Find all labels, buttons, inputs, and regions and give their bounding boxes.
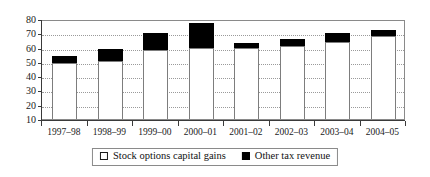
x-axis-tick-label: 1997–98 — [47, 128, 80, 138]
bar-group — [280, 19, 305, 119]
legend-item-stock-options: Stock options capital gains — [100, 151, 226, 162]
y-axis-tick-label: 20 — [26, 101, 36, 111]
bar-segment-stock-options-capital-gains — [371, 36, 396, 119]
y-axis-tick — [38, 63, 42, 64]
bar-segment-other-tax-revenue — [189, 23, 214, 47]
y-axis-tick — [38, 77, 42, 78]
x-axis-tick-label: 2001–02 — [229, 128, 262, 138]
bar-group — [325, 19, 350, 119]
y-axis-tick — [38, 91, 42, 92]
legend-label: Stock options capital gains — [113, 151, 226, 162]
x-axis-tick — [41, 121, 42, 126]
y-axis-tick-label: 50 — [26, 58, 36, 68]
bar-group — [234, 19, 259, 119]
y-axis-tick-label: 10 — [26, 115, 36, 125]
bar-segment-stock-options-capital-gains — [143, 50, 168, 119]
y-axis-tick-label: 70 — [26, 29, 36, 39]
legend-swatch-filled-square-icon — [242, 152, 250, 160]
bar-group — [143, 19, 168, 119]
legend-swatch-hollow-square-icon — [100, 152, 108, 160]
bar-segment-stock-options-capital-gains — [325, 42, 350, 119]
bar-segment-other-tax-revenue — [234, 43, 259, 47]
bar-group — [189, 19, 214, 119]
bar-chart: 1020304050607080 1997–981998–991999–0020… — [0, 0, 430, 177]
y-axis-tick — [38, 20, 42, 21]
bar-segment-stock-options-capital-gains — [280, 46, 305, 119]
x-axis-tick-label: 2002–03 — [275, 128, 308, 138]
plot-inner — [42, 21, 404, 119]
x-axis-tick — [132, 121, 133, 126]
x-axis-tick — [87, 121, 88, 126]
bar-segment-other-tax-revenue — [325, 33, 350, 42]
x-axis-tick — [405, 121, 406, 126]
bar-segment-other-tax-revenue — [371, 30, 396, 36]
y-axis-tick — [38, 34, 42, 35]
x-axis-tick — [269, 121, 270, 126]
bar-segment-stock-options-capital-gains — [98, 61, 123, 119]
bar-segment-other-tax-revenue — [52, 56, 77, 63]
bar-segment-stock-options-capital-gains — [189, 48, 214, 119]
x-axis-tick-label: 1998–99 — [93, 128, 126, 138]
y-axis-tick-label: 80 — [26, 15, 36, 25]
bar-segment-other-tax-revenue — [143, 33, 168, 51]
y-axis: 1020304050607080 — [41, 20, 42, 120]
x-axis-tick — [314, 121, 315, 126]
x-axis-tick — [223, 121, 224, 126]
y-axis-tick-label: 30 — [26, 86, 36, 96]
x-axis-tick-label: 2000–01 — [184, 128, 217, 138]
y-axis-tick-label: 40 — [26, 72, 36, 82]
bar-segment-stock-options-capital-gains — [52, 63, 77, 119]
bar-group — [371, 19, 396, 119]
bar-group — [98, 19, 123, 119]
chart-legend: Stock options capital gains Other tax re… — [92, 148, 338, 166]
x-axis: 1997–981998–991999–002000–012001–022002–… — [41, 120, 405, 121]
x-axis-tick — [178, 121, 179, 126]
legend-label: Other tax revenue — [255, 151, 330, 162]
plot-area — [41, 20, 405, 120]
bar-segment-other-tax-revenue — [280, 39, 305, 46]
x-axis-tick-label: 2004–05 — [366, 128, 399, 138]
bar-segment-other-tax-revenue — [98, 49, 123, 61]
x-axis-tick-label: 1999–00 — [138, 128, 171, 138]
legend-item-other-tax-revenue: Other tax revenue — [242, 151, 330, 162]
x-axis-tick — [360, 121, 361, 126]
y-axis-tick — [38, 106, 42, 107]
x-axis-tick-label: 2003–04 — [320, 128, 353, 138]
y-axis-tick — [38, 49, 42, 50]
y-axis-tick-label: 60 — [26, 44, 36, 54]
bar-segment-stock-options-capital-gains — [234, 48, 259, 119]
bar-group — [52, 19, 77, 119]
